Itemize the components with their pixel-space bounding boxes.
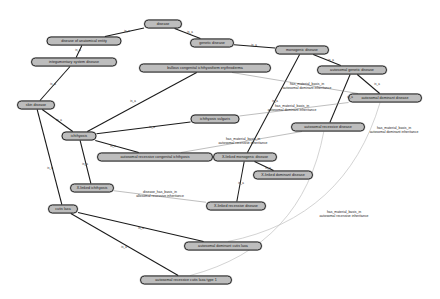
graph-node-xrec[interactable]: X-linked recessive disease (206, 202, 266, 211)
graph-node-xichth[interactable]: X-linked ichthyosis (70, 184, 114, 193)
edge-isa-label: is_a (374, 82, 380, 86)
edge-isa-label: is_a (265, 166, 271, 170)
edge-relation-label: has_material_basis_inautosomal dominant … (283, 82, 332, 91)
graph-edge (95, 141, 138, 153)
graph-node-xmono[interactable]: X-linked monogenic disease (213, 153, 277, 162)
graph-node-label: cutis laxa (55, 207, 70, 211)
edge-relation-label: has_material_basis_inautosomal dominant … (268, 104, 317, 113)
graph-node-ichthvulg[interactable]: ichthyosis vulgaris (191, 115, 240, 124)
edge-isa-label: is_a (328, 58, 334, 62)
graph-node-label: disease (157, 22, 170, 26)
graph-node-label: autosomal genetic disease (330, 68, 374, 72)
graph-edge (37, 110, 62, 205)
edge-isa-label: is_a (187, 30, 193, 34)
edge-isa-label: is_a (56, 118, 62, 122)
graph-node-label: autosomal recessive disease (304, 125, 352, 129)
edge-relation-label: has_material_basis_inautosomal recessive… (319, 210, 368, 219)
edge-relation-object: autosomal dominant inheritance (370, 130, 419, 134)
edge-isa-label: is_a (251, 43, 257, 47)
edge-relation-label: has_material_basis_inautosomal dominant … (370, 126, 419, 135)
edge-isa-label: is_a (124, 29, 130, 33)
graph-node-label: X-linked recessive disease (214, 204, 258, 208)
graph-node-autorec[interactable]: autosomal recessive disease (291, 123, 365, 132)
edge-isa-label: is_a (347, 95, 353, 99)
edge-isa-label: is_a (272, 99, 278, 103)
graph-node-label: ichthyosis vulgaris (200, 117, 230, 121)
edge-relation-object: autosomal recessive inheritance (218, 141, 267, 145)
edge-isa-label: is_a (149, 125, 155, 129)
graph-node-arci[interactable]: autosomal recessive congenital ichthyosi… (97, 153, 213, 162)
graph-node-label: disease of anatomical entity (61, 39, 107, 43)
graph-node-genetic[interactable]: genetic disease (190, 39, 234, 48)
graph-node-monogenic[interactable]: monogenic disease (275, 46, 329, 55)
graph-node-disease[interactable]: disease (144, 20, 182, 29)
graph-node-label: bullous congenital ichthyosiform erythro… (167, 66, 243, 70)
graph-node-doae[interactable]: disease of anatomical entity (47, 37, 122, 46)
graph-node-cutislaxa[interactable]: cutis laxa (48, 205, 78, 214)
graph-node-label: autosomal dominant cutis laxa (198, 244, 248, 248)
graph-node-label: monogenic disease (286, 48, 318, 52)
edge-relation-label: has_material_basis_inautosomal recessive… (218, 137, 267, 146)
edge-isa-label: is_a (121, 245, 127, 249)
graph-edge (313, 55, 341, 66)
graph-node-label: X-linked ichthyosis (77, 186, 108, 190)
edge-relation-label: disease_has_basis_inallosomal recessive … (136, 190, 184, 199)
graph-edge (87, 73, 196, 132)
edge-relation-object: allosomal recessive inheritance (136, 194, 184, 198)
graph-node-label: autosomal recessive cutis laxa type 1 (155, 278, 216, 282)
graph-node-arcl1[interactable]: autosomal recessive cutis laxa type 1 (140, 276, 232, 285)
edge-isa-label: is_a (47, 166, 53, 170)
edge-relation-object: autosomal dominant inheritance (268, 108, 317, 112)
graph-node-adcl[interactable]: autosomal dominant cutis laxa (184, 242, 262, 251)
graph-node-bullous[interactable]: bullous congenital ichthyosiform erythro… (139, 64, 271, 73)
edge-isa-label: is_a (82, 162, 88, 166)
graph-node-label: skin disease (26, 103, 46, 107)
graph-edge (97, 122, 191, 134)
graph-node-skin[interactable]: skin disease (17, 101, 55, 110)
edge-isa-label: is_a (130, 99, 136, 103)
graph-node-integ[interactable]: integumentary system disease (31, 58, 117, 67)
graph-node-label: X-linked dominant disease (261, 173, 304, 177)
graph-node-autogenetic[interactable]: autosomal genetic disease (317, 66, 387, 75)
edge-isa-label: is_a (238, 181, 244, 185)
graph-node-ichthyosis[interactable]: ichthyosis (62, 132, 97, 141)
edge-isa-label: is_a (75, 48, 81, 52)
edge-isa-label: is_a (50, 82, 56, 86)
graph-node-label: autosomal dominant disease (361, 96, 408, 100)
graph-node-label: integumentary system disease (49, 60, 99, 64)
edge-relation-object: autosomal dominant inheritance (283, 86, 332, 90)
graph-node-label: X-linked monogenic disease (222, 155, 268, 159)
graph-node-label: genetic disease (199, 41, 225, 45)
edge-relation-object: autosomal recessive inheritance (319, 214, 368, 218)
graph-node-label: ichthyosis (71, 134, 87, 138)
graph-node-xdom[interactable]: X-linked dominant disease (253, 171, 313, 180)
ontology-graph-canvas: diseasedisease of anatomical entitygenet… (0, 0, 440, 299)
edge-isa-label: is_a (138, 226, 144, 230)
edge-isa-label: is_a (110, 144, 116, 148)
graph-node-autodom[interactable]: autosomal dominant disease (348, 94, 422, 103)
graph-node-label: autosomal recessive congenital ichthyosi… (121, 155, 190, 159)
